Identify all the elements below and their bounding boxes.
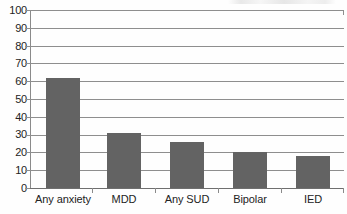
gridline-70	[30, 63, 344, 64]
y-axis-tick-label: 80	[1, 41, 27, 52]
scan-artifact-sliver	[228, 0, 336, 4]
y-axis-tick-label: 90	[1, 23, 27, 34]
y-axis-tick-mark	[25, 99, 30, 100]
y-axis-tick-label: 10	[1, 165, 27, 176]
y-axis-tick-label: 60	[1, 76, 27, 87]
y-axis-tick-mark	[25, 170, 30, 171]
x-axis-tick-label: Bipolar	[216, 193, 284, 206]
bar-mdd	[107, 133, 141, 188]
y-axis-tick-mark	[25, 135, 30, 136]
y-axis-tick-label: 70	[1, 58, 27, 69]
plot-area	[30, 10, 344, 188]
y-axis: 100 90 80 70 60 50 40 30 20 10 0	[0, 0, 27, 214]
y-axis-tick-mark	[25, 10, 30, 11]
x-axis: Any anxiety MDD Any SUD Bipolar IED	[30, 193, 344, 211]
x-axis-tick-label: Any SUD	[150, 193, 224, 206]
x-axis-tick-label: MDD	[90, 193, 158, 206]
y-axis-tick-label: 40	[1, 112, 27, 123]
bar-bipolar	[233, 152, 267, 188]
gridline-baseline-0	[30, 188, 344, 189]
gridline-80	[30, 46, 344, 47]
y-axis-tick-mark	[25, 28, 30, 29]
bar-any-sud	[170, 142, 204, 188]
y-axis-tick-mark	[25, 46, 30, 47]
x-axis-tick-label: IED	[279, 193, 347, 206]
y-axis-tick-mark	[25, 117, 30, 118]
bar-chart-figure: 100 90 80 70 60 50 40 30 20 10 0	[0, 0, 347, 214]
bar-ied	[296, 156, 330, 188]
y-axis-tick-label: 50	[1, 94, 27, 105]
y-axis-tick-mark	[25, 152, 30, 153]
y-axis-tick-mark	[25, 63, 30, 64]
y-axis-tick-label: 100	[1, 5, 27, 16]
gridline-100	[30, 10, 344, 11]
y-axis-tick-label: 20	[1, 147, 27, 158]
y-axis-tick-mark	[25, 81, 30, 82]
gridline-90	[30, 28, 344, 29]
bar-any-anxiety	[46, 78, 80, 188]
y-axis-tick-label: 30	[1, 129, 27, 140]
y-axis-tick-mark	[25, 188, 30, 189]
